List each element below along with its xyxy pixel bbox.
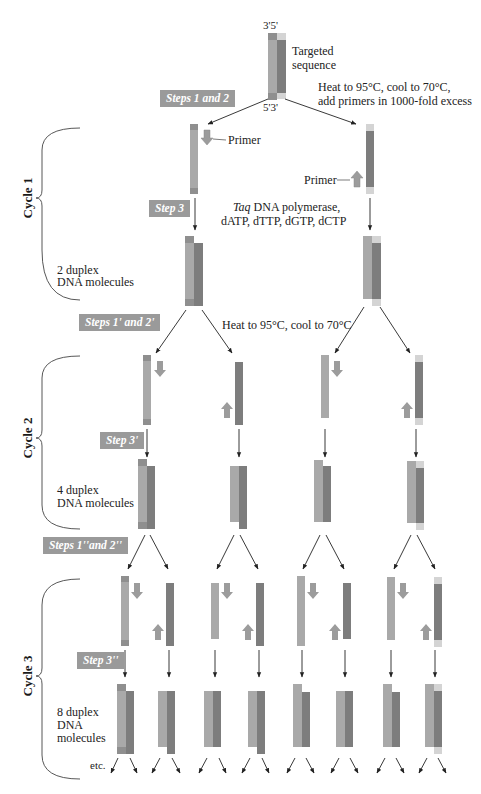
targeted-sequence-label: Targeted sequence [292,44,336,72]
cycle2-product-4 [407,461,424,530]
cycle3-strand-7 [387,577,409,640]
cycle3-result-line1: 8 duplex [57,705,99,719]
cycle3-strand-4 [242,583,264,646]
cycle1-left-strand [190,124,226,194]
cycle1-product-left [185,236,203,306]
cycle3-strand-2 [152,583,174,646]
heat-primers-line1: Heat to 95°C, cool to 70°C, [318,80,451,94]
cycle2-strand-1 [143,355,166,425]
cycle1-label: Cycle 1 [20,168,36,228]
heat-cool-label-2: Heat to 95°C, cool to 70°C [222,318,352,332]
steps-1p-2p-label: Steps 1' and 2' [79,314,160,331]
steps-1pp-2pp-label: Steps 1''and 2'' [43,537,128,554]
step-3pp-label: Step 3'' [77,652,124,669]
diagram-graphics [0,0,481,794]
step-1-and-2-label: Steps 1 and 2 [160,90,235,107]
cycle2-product-2 [230,466,247,529]
cycle3-product-7 [383,684,400,747]
cycle3-product-1 [117,684,134,754]
cycle2-strand-2 [221,362,243,425]
primer-label-right: Primer [304,173,337,187]
taq-italic: Taq [233,200,251,214]
cycle1-product-right [363,236,381,306]
cycle3-product-2 [158,691,175,754]
pcr-diagram: 3'5' 5'3' Targeted sequence Heat to 95°C… [0,0,481,794]
dntps-label: dATP, dTTP, dGTP, dCTP [221,214,346,228]
taq-rest: DNA polymerase, [251,200,341,214]
cycle3-product-4 [248,691,265,754]
cycle3-label: Cycle 3 [20,646,36,706]
cycle3-product-5 [293,684,310,747]
label-3prime-5prime-top: 3'5' [263,18,278,32]
cycle3-result-line3: molecules [57,731,106,745]
primer-label-left: Primer [228,133,261,147]
cycle1-right-strand [337,124,374,194]
cycle3-product-6 [336,691,353,747]
cycle3-strand-3 [211,583,233,639]
cycle1-result-line2: DNA molecules [57,275,134,289]
cycle3-result-line2: DNA [57,718,83,732]
cycle2-product-3 [314,460,331,522]
cycle3-product-8 [425,684,442,754]
label-5prime-3prime-bottom: 5'3' [263,100,278,114]
target-duplex [268,33,286,100]
step-3-label: Step 3 [149,200,190,217]
cycle3-strand-6 [329,583,351,640]
cycle3-product-3 [204,691,221,747]
cycle2-product-1 [138,459,155,529]
cycle2-strand-4 [401,355,423,425]
cycle2-result-line2: DNA molecules [57,496,134,510]
etc-label: etc. [90,758,106,772]
cycle2-strand-3 [321,355,343,418]
heat-primers-line2: add primers in 1000-fold excess [318,94,472,108]
cycle2-label: Cycle 2 [20,408,36,468]
cycle3-strand-5 [297,576,319,646]
cycle3-strand-8 [420,577,442,647]
step-3p-label: Step 3' [100,432,144,449]
cycle3-strand-1 [121,576,143,646]
cycle2-result-line1: 4 duplex [57,483,99,497]
taq-polymerase-label: Taq DNA polymerase, [233,200,340,214]
